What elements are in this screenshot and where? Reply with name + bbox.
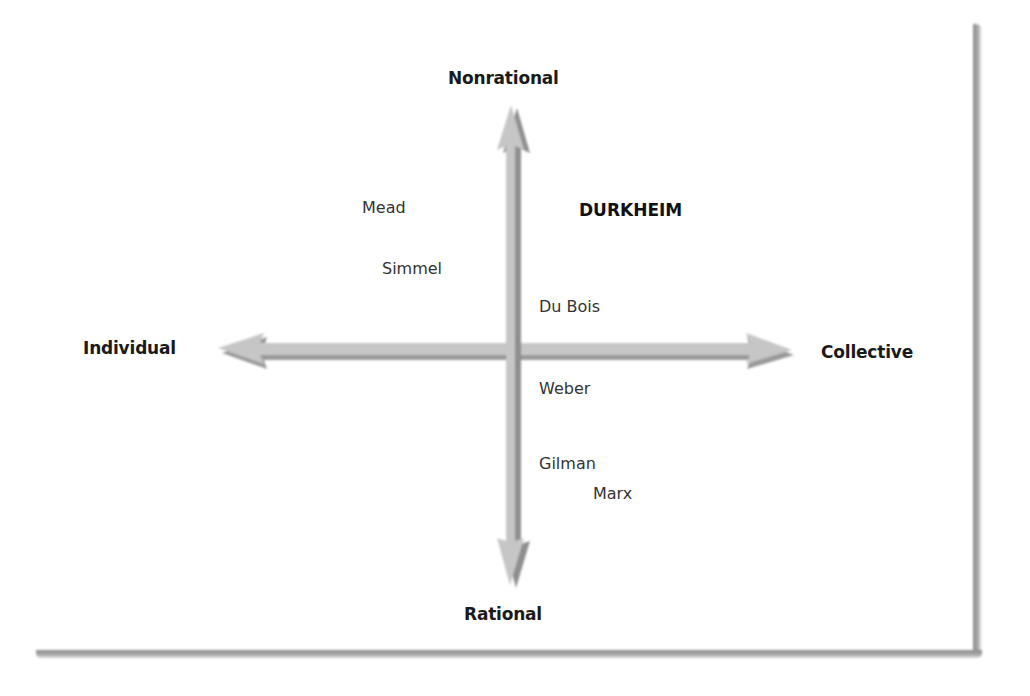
axis-label-top: Nonrational [448,68,559,88]
theorist-weber: Weber [539,379,590,398]
axis-label-right: Collective [821,342,913,362]
theorist-gilman: Gilman [539,454,596,473]
axis-label-left: Individual [83,338,176,358]
theorist-marx: Marx [593,484,632,503]
axis-label-bottom: Rational [464,604,542,624]
theorist-du-bois: Du Bois [539,297,600,316]
theory-quadrant-diagram: Nonrational Rational Individual Collecti… [0,0,1030,696]
theorist-durkheim: DURKHEIM [579,200,682,220]
theorist-mead: Mead [362,198,406,217]
theorist-simmel: Simmel [382,259,442,278]
